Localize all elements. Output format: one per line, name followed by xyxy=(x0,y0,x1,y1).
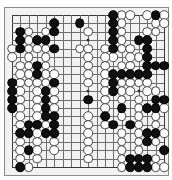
white-stone[interactable] xyxy=(83,27,93,37)
white-stone[interactable] xyxy=(109,52,119,62)
black-stone[interactable] xyxy=(126,120,136,130)
go-board-app xyxy=(0,0,172,180)
white-stone[interactable] xyxy=(24,162,34,172)
black-stone[interactable] xyxy=(49,27,59,37)
white-stone[interactable] xyxy=(159,19,169,29)
white-stone[interactable] xyxy=(7,52,17,62)
black-stone[interactable] xyxy=(151,10,161,20)
white-stone[interactable] xyxy=(159,129,169,139)
black-stone[interactable] xyxy=(142,162,152,172)
black-stone[interactable] xyxy=(151,129,161,139)
black-stone[interactable] xyxy=(117,103,127,113)
white-stone[interactable] xyxy=(126,10,136,20)
white-stone[interactable] xyxy=(126,86,136,96)
black-stone[interactable] xyxy=(159,61,169,71)
black-stone[interactable] xyxy=(24,129,34,139)
black-stone[interactable] xyxy=(109,120,119,130)
black-stone[interactable] xyxy=(142,137,152,147)
stones-layer[interactable] xyxy=(5,8,168,175)
white-stone[interactable] xyxy=(151,137,161,147)
black-stone[interactable] xyxy=(109,44,119,54)
white-stone[interactable] xyxy=(49,145,59,155)
white-stone[interactable] xyxy=(33,154,43,164)
black-stone[interactable] xyxy=(49,44,59,54)
white-stone[interactable] xyxy=(117,112,127,122)
black-stone[interactable] xyxy=(41,36,51,46)
black-stone[interactable] xyxy=(159,95,169,105)
black-stone[interactable] xyxy=(142,69,152,79)
black-stone[interactable] xyxy=(33,120,43,130)
black-stone[interactable] xyxy=(109,86,119,96)
board-container[interactable] xyxy=(0,0,172,180)
black-stone[interactable] xyxy=(100,112,110,122)
black-stone[interactable] xyxy=(16,162,26,172)
black-stone[interactable] xyxy=(16,44,26,54)
black-stone[interactable] xyxy=(7,103,17,113)
black-stone[interactable] xyxy=(83,95,93,105)
black-stone[interactable] xyxy=(49,129,59,139)
black-stone[interactable] xyxy=(151,103,161,113)
white-stone[interactable] xyxy=(83,78,93,88)
black-stone[interactable] xyxy=(24,145,34,155)
white-stone[interactable] xyxy=(83,154,93,164)
black-stone[interactable] xyxy=(159,145,169,155)
black-stone[interactable] xyxy=(75,19,85,29)
goban[interactable] xyxy=(4,7,169,176)
white-stone[interactable] xyxy=(159,103,169,113)
black-stone[interactable] xyxy=(33,69,43,79)
black-stone[interactable] xyxy=(49,78,59,88)
white-stone[interactable] xyxy=(151,27,161,37)
white-stone[interactable] xyxy=(159,162,169,172)
